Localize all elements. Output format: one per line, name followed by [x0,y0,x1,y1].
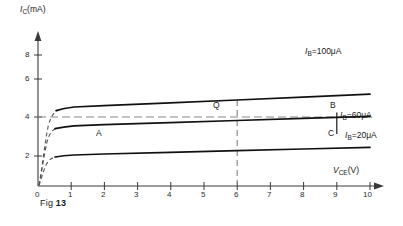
x-tick-label-3: 3 [134,190,138,199]
x-axis-label-unit: (V) [348,165,359,175]
guide-lines-group [38,100,372,182]
point-label-c: C [328,128,334,138]
curve-label-ib-60ua: IB=60μA [340,110,372,121]
curve-ib-100ua-knee-dashed [39,110,58,185]
x-tick-label-7: 7 [267,190,271,199]
y-axis-label-unit: (mA) [27,4,45,14]
curve-label-ib-100ua-value: =100μA [312,46,342,56]
figure-caption-prefix: Fig [40,198,53,208]
curve-label-ib-20ua-value: =20μA [352,130,377,140]
x-axis-label-subscript: CE [339,169,348,176]
curve-ib-60ua-solid [55,116,370,128]
x-tick-label-2: 2 [101,190,105,199]
curve-ib-100ua [39,94,370,185]
x-axis-label: VCE(V) [333,165,359,176]
curve-label-ib-20ua: IB=20μA [345,130,377,141]
x-tick-label-1: 1 [68,190,72,199]
y-tick-label-6: 6 [25,74,29,83]
figure-caption-number: 13 [56,198,66,208]
y-tick-label-8: 8 [25,50,29,59]
x-axis-arrowhead [374,183,384,190]
y-axis-arrowhead [35,31,42,41]
point-label-a: A [96,128,102,138]
y-tick-label-4: 4 [25,112,29,121]
curve-ib-20ua [39,147,370,185]
point-label-b: B [330,100,336,110]
curve-ib-60ua [39,116,370,185]
y-tick-label-2: 2 [25,151,29,160]
x-tick-label-5: 5 [201,190,205,199]
x-tick-label-8: 8 [300,190,304,199]
point-label-q: Q [213,100,220,110]
x-tick-label-6: 6 [234,190,238,199]
y-axis-label: IC(mA) [20,4,46,15]
x-tick-label-10: 10 [363,190,372,199]
curve-label-ib-60ua-value: =60μA [347,110,372,120]
figure-caption: Fig 13 [40,198,66,208]
x-tick-label-4: 4 [167,190,171,199]
x-tick-label-0: 0 [35,190,39,199]
curve-label-ib-100ua: IB=100μA [305,46,341,57]
curve-ib-20ua-solid [55,147,370,157]
x-tick-label-9: 9 [333,190,337,199]
